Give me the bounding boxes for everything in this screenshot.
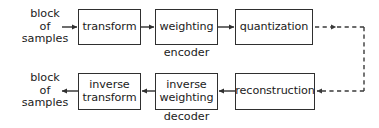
label-output-block-of-samples: block of samples — [14, 72, 76, 110]
label-input-block-of-samples: block of samples — [14, 8, 76, 46]
block-weighting[interactable]: weighting — [155, 9, 218, 45]
block-transform[interactable]: transform — [78, 9, 141, 45]
block-reconstruction[interactable]: reconstruction — [235, 73, 315, 110]
label-encoder: encoder — [155, 46, 218, 60]
block-inverse-weighting[interactable]: inverse weighting — [155, 73, 218, 110]
block-quantization[interactable]: quantization — [235, 9, 313, 45]
label-decoder: decoder — [155, 110, 218, 124]
block-diagram: transform weighting quantization reconst… — [0, 0, 379, 128]
block-inverse-transform[interactable]: inverse transform — [78, 73, 141, 110]
